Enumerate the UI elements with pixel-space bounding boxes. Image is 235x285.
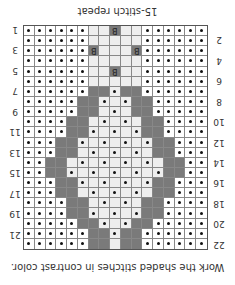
purl-cell [196,188,207,198]
purl-dot-icon [81,39,84,42]
shaded-cell [56,158,67,168]
purl-dot-icon [38,120,41,123]
purl-dot-icon [167,212,170,215]
shaded-cell [78,127,89,137]
shaded-cell [67,117,78,127]
purl-cell [185,117,196,127]
purl-cell [67,56,78,66]
purl-dot-icon [113,151,116,154]
shaded-cell [67,138,78,148]
purl-dot-icon [189,49,192,52]
purl-dot-icon [189,39,192,42]
purl-dot-icon [49,110,52,113]
purl-cell [185,77,196,87]
purl-dot-icon [27,161,30,164]
purl-dot-icon [167,201,170,204]
purl-cell [185,46,196,56]
purl-cell [164,97,175,107]
purl-cell [24,127,35,137]
purl-dot-icon [124,181,127,184]
purl-dot-icon [38,49,41,52]
purl-cell [35,148,46,158]
purl-dot-icon [60,110,63,113]
purl-dot-icon [38,110,41,113]
purl-cell [185,138,196,148]
inner-cell [99,36,110,46]
purl-cell [196,198,207,208]
purl-cell [24,229,35,239]
purl-dot-icon [178,120,181,123]
inner-cell [121,46,132,56]
purl-dot-icon [70,70,73,73]
inner-cell [89,168,100,178]
shaded-cell [175,168,186,178]
purl-cell [175,36,186,46]
purl-dot-icon [167,130,170,133]
purl-cell [67,229,78,239]
purl-dot-icon [167,80,170,83]
purl-cell [24,46,35,56]
purl-dot-icon [200,90,203,93]
purl-dot-icon [38,161,41,164]
purl-dot-icon [27,212,30,215]
purl-cell [175,97,186,107]
purl-cell [175,208,186,218]
purl-dot-icon [178,191,181,194]
purl-dot-icon [124,161,127,164]
purl-dot-icon [146,59,149,62]
purl-dot-icon [178,80,181,83]
purl-cell [196,138,207,148]
inner-cell [121,56,132,66]
purl-dot-icon [49,232,52,235]
purl-dot-icon [178,242,181,245]
purl-dot-icon [27,49,30,52]
purl-dot-icon [60,29,63,32]
inner-cell [78,148,89,158]
purl-dot-icon [200,222,203,225]
shaded-cell [78,208,89,218]
stitch-chart-grid: BBBB [23,25,208,250]
purl-cell [24,208,35,218]
inner-cell [99,107,110,117]
inner-cell [99,178,110,188]
shaded-cell [67,127,78,137]
inner-cell [121,36,132,46]
inner-cell [99,67,110,77]
inner-cell [132,77,143,87]
purl-dot-icon [157,110,160,113]
purl-dot-icon [135,191,138,194]
purl-dot-icon [113,130,116,133]
purl-cell [46,239,57,249]
purl-dot-icon [189,100,192,103]
inner-cell [110,46,121,56]
purl-cell [67,77,78,87]
purl-dot-icon [200,130,203,133]
purl-dot-icon [27,80,30,83]
purl-dot-icon [38,100,41,103]
purl-dot-icon [189,130,192,133]
purl-cell [67,219,78,229]
purl-cell [67,87,78,97]
row-label: 10 [212,117,226,127]
shaded-cell [164,178,175,188]
purl-cell [153,36,164,46]
purl-cell [56,36,67,46]
purl-dot-icon [60,100,63,103]
inner-cell [89,127,100,137]
shaded-cell [78,107,89,117]
purl-cell [196,87,207,97]
inner-cell [89,26,100,36]
purl-dot-icon [92,171,95,174]
purl-cell [164,87,175,97]
row-label: 22 [212,240,226,250]
purl-cell [153,219,164,229]
purl-cell [153,77,164,87]
inner-cell [89,67,100,77]
purl-dot-icon [124,201,127,204]
purl-dot-icon [146,141,149,144]
purl-dot-icon [70,80,73,83]
purl-cell [164,67,175,77]
purl-dot-icon [178,59,181,62]
purl-cell [35,188,46,198]
purl-dot-icon [124,100,127,103]
